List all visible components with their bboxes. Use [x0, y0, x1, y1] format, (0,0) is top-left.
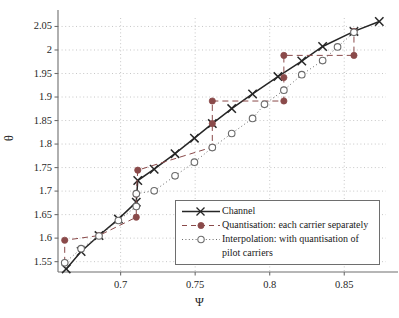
- x-axis-label: Ψ: [0, 296, 399, 308]
- y-tick-label: 1.85: [8, 116, 52, 127]
- chart-legend: Channel Quantisation: each carrier separ…: [175, 200, 380, 265]
- y-tick-label: 1.95: [8, 69, 52, 80]
- y-tick-label: 1.8: [8, 139, 52, 150]
- legend-label-interpolation-line2: pilot carriers: [180, 247, 273, 259]
- legend-sample-quantisation: [180, 219, 222, 232]
- chart-figure: θ Ψ 1.551.61.651.71.751.81.851.91.9522.0…: [0, 0, 399, 318]
- legend-label-channel: Channel: [222, 205, 255, 217]
- plot-canvas: [0, 0, 399, 318]
- y-tick-label: 1.55: [8, 257, 52, 268]
- y-tick-label: 2: [8, 45, 52, 56]
- y-tick-label: 1.7: [8, 186, 52, 197]
- legend-item-quantisation: Quantisation: each carrier separately: [180, 219, 374, 232]
- y-tick-label: 1.75: [8, 163, 52, 174]
- legend-item-interpolation: Interpolation: with quantisation of: [180, 233, 374, 246]
- legend-sample-channel: [180, 205, 222, 218]
- legend-label-interpolation: Interpolation: with quantisation of: [222, 233, 359, 245]
- legend-item-interpolation-cont: pilot carriers: [180, 247, 374, 259]
- y-tick-label: 1.9: [8, 92, 52, 103]
- y-tick-label: 1.65: [8, 210, 52, 221]
- x-tick-label: 0.75: [175, 280, 215, 291]
- y-tick-label: 2.05: [8, 21, 52, 32]
- x-tick-label: 0.85: [324, 280, 364, 291]
- legend-item-channel: Channel: [180, 205, 374, 218]
- x-tick-label: 0.8: [250, 280, 290, 291]
- y-tick-label: 1.6: [8, 233, 52, 244]
- legend-label-quantisation: Quantisation: each carrier separately: [222, 219, 368, 231]
- legend-sample-interpolation: [180, 233, 222, 246]
- x-tick-label: 0.7: [101, 280, 141, 291]
